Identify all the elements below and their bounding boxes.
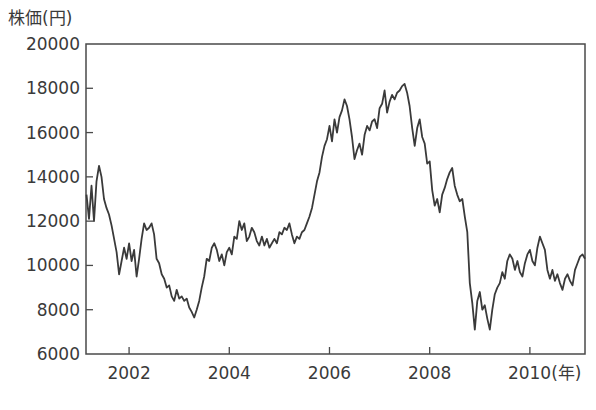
y-tick-label: 6000 [37,344,80,364]
x-tick-label: 2002 [107,363,150,383]
x-axis: 20022004200620082010(年) [107,347,581,383]
y-tick-label: 16000 [26,123,80,143]
plot-frame [86,44,585,354]
x-tick-label: 2010(年) [508,363,582,383]
y-tick-label: 10000 [26,255,80,275]
y-tick-label: 20000 [26,34,80,54]
x-tick-label: 2004 [208,363,251,383]
x-tick-label: 2006 [308,363,351,383]
y-tick-label: 14000 [26,167,80,187]
y-tick-label: 12000 [26,211,80,231]
y-axis: 60008000100001200014000160001800020000 [26,34,93,364]
stock-price-line-chart: 60008000100001200014000160001800020000 2… [0,0,596,410]
y-tick-label: 8000 [37,300,80,320]
x-tick-label: 2008 [408,363,451,383]
stock-price-line [87,84,586,330]
y-tick-label: 18000 [26,78,80,98]
